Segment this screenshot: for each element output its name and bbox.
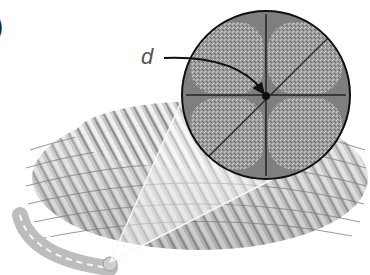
diameter-label: d: [141, 46, 153, 68]
wire-rope-illustration: [0, 0, 370, 275]
wire-rope-figure: ): [0, 0, 370, 275]
strand: [190, 22, 264, 94]
strand: [268, 22, 342, 94]
